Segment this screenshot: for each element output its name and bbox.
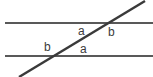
geometry-diagram: a b b a <box>0 0 153 77</box>
geometry-figure <box>0 0 153 77</box>
angle-label-a-lower: a <box>80 43 87 55</box>
angle-label-b-upper: b <box>108 26 115 38</box>
angle-label-b-lower: b <box>44 41 51 53</box>
angle-label-a-upper: a <box>78 25 85 37</box>
transversal-line <box>19 1 145 77</box>
